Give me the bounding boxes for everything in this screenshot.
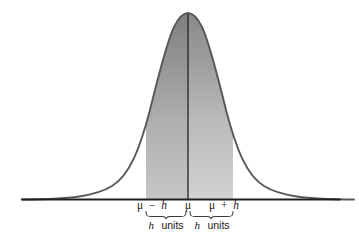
label-mu-minus-h-operator: −: [149, 199, 156, 211]
left-brace-label-h: h: [148, 219, 154, 231]
label-mu-plus-h: μ + h: [209, 199, 239, 212]
label-mu-minus-h-mu: μ: [137, 199, 143, 212]
left-brace-label-units: units: [161, 219, 183, 231]
label-mu-plus-h-h: h: [233, 199, 239, 211]
label-mu-minus-h-h: h: [161, 199, 167, 211]
right-brace-label-h: h: [194, 219, 200, 231]
distribution-diagram-canvas: μ − h μ μ + h h units h units: [0, 0, 359, 249]
left-brace: [146, 212, 186, 219]
label-mu-plus-h-operator: +: [221, 199, 228, 211]
right-brace: [190, 212, 233, 219]
right-brace-label-units: units: [207, 219, 229, 231]
shaded-region-right: [188, 0, 233, 200]
normal-distribution-figure: μ − h μ μ + h h units h units: [0, 0, 359, 249]
label-mu-minus-h: μ − h: [137, 199, 167, 212]
label-mu-plus-h-mu: μ: [209, 199, 215, 212]
label-mu: μ: [185, 199, 191, 212]
